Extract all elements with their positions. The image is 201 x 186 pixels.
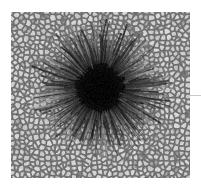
- right-edge-tick: [188, 95, 201, 96]
- sunspot-photograph: [11, 12, 190, 178]
- image-canvas: [0, 0, 201, 186]
- sunspot-render-surface: [11, 12, 190, 178]
